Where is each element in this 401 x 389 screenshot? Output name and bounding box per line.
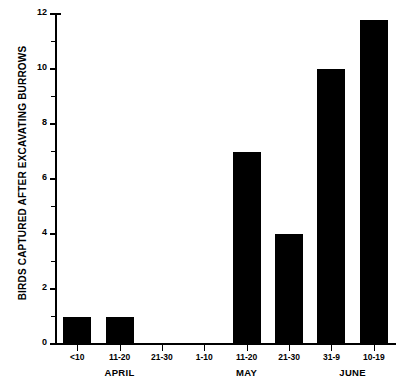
bar-chart-figure: BIRDS CAPTURED AFTER EXCAVATING BURROWS … [0,0,401,389]
y-axis-tick: 8 [50,123,56,125]
x-axis-tick-label: 21-30 [151,352,173,363]
bar [275,234,303,344]
bar [317,69,345,344]
x-axis-tick [289,345,290,351]
x-axis-group-label: APRIL [105,366,135,379]
y-axis-minor-tick [51,316,56,317]
y-axis-minor-tick [51,151,56,152]
y-axis-tick-label: 0 [42,336,47,348]
x-axis-tick-label: 21-30 [278,352,300,363]
x-axis-tick-label: 11-20 [236,352,257,363]
x-axis-tick [120,345,121,351]
y-axis-tick-label: 2 [42,281,47,293]
y-axis-tick: 12 [50,13,56,15]
y-axis-tick: 2 [50,288,56,290]
y-axis-tick-label: 8 [42,116,47,128]
y-axis-tick-label: 4 [42,226,47,238]
plot-area: 024681012 [56,14,395,344]
y-axis-tick: 4 [50,233,56,235]
bar [360,20,388,345]
x-axis-tick-label: 1-10 [196,352,213,363]
y-axis-tick: 10 [50,68,56,70]
y-axis-minor-tick [51,96,56,97]
x-axis-tick [374,345,375,351]
x-axis-tick [247,345,248,351]
x-axis-tick-label: 10-19 [363,352,385,363]
x-axis-tick-label: <10 [70,352,84,363]
x-axis-group-labels: APRILMAYJUNE [56,366,396,382]
x-axis-tick [331,345,332,351]
x-axis-tick [77,345,78,351]
y-axis-minor-tick [51,206,56,207]
x-axis-tick-labels: <1011-2021-301-1011-2021-3031-910-19 [56,352,396,366]
y-axis-minor-tick [51,261,56,262]
bar [63,317,91,345]
y-axis-title: BIRDS CAPTURED AFTER EXCAVATING BURROWS [14,8,32,338]
x-axis-group-label: MAY [236,366,257,379]
y-axis-tick-label: 12 [37,6,47,18]
x-axis-tick-label: 11-20 [109,352,130,363]
bar [233,152,261,345]
x-axis-tick [162,345,163,351]
y-axis-tick: 6 [50,178,56,180]
y-axis-minor-tick [51,41,56,42]
x-axis-group-label: JUNE [339,366,366,379]
y-axis-tick: 0 [50,343,56,345]
bar [106,317,134,345]
x-axis-tick [204,345,205,351]
x-axis-tick-label: 31-9 [323,352,340,363]
y-axis-tick-label: 6 [42,171,47,183]
y-axis-tick-label: 10 [37,61,47,73]
